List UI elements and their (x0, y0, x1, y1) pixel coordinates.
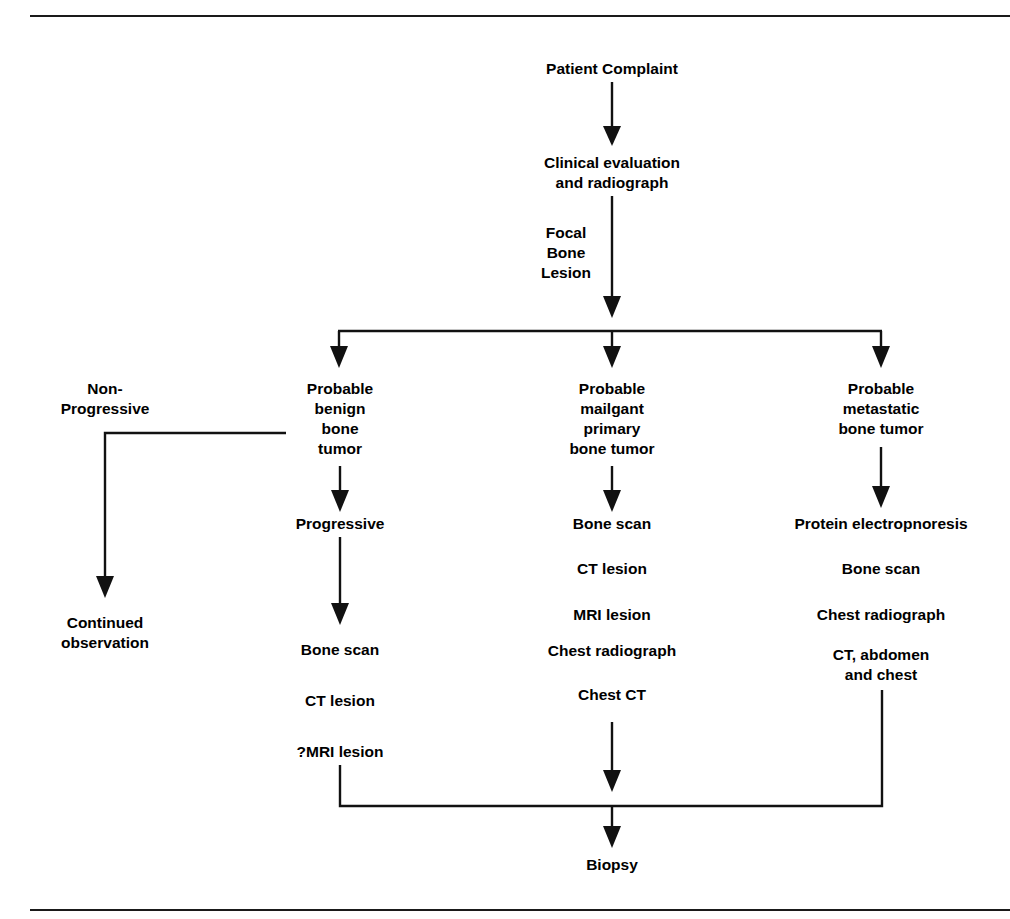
arrowhead-to-malignant-tests (603, 490, 621, 512)
node-malignant-line3: primary (584, 420, 641, 437)
arrowhead-to-metastatic (872, 346, 890, 368)
node-benign-line1: Probable (307, 380, 374, 397)
flowchart-canvas: Patient Complaint Clinical evaluation an… (0, 0, 1010, 919)
node-malignant-test-2: CT lesion (577, 560, 647, 577)
node-patient-complaint: Patient Complaint (546, 60, 678, 77)
node-malignant-test-1: Bone scan (573, 515, 651, 532)
node-metastatic-test-4-line2: and chest (845, 666, 917, 683)
node-focal-lesion-line1: Focal (546, 224, 586, 241)
node-benign-line4: tumor (318, 440, 362, 457)
node-continued-observation-line2: observation (61, 634, 149, 651)
arrowhead-to-continued-observation (96, 576, 114, 598)
arrowhead-to-benign (330, 346, 348, 368)
node-metastatic-test-1: Protein electropnoresis (794, 515, 967, 532)
node-malignant-test-4: Chest radiograph (548, 642, 676, 659)
edge-benign-to-continued-observation (105, 433, 286, 578)
node-clinical-evaluation-line2: and radiograph (556, 174, 669, 191)
node-metastatic-test-4-line1: CT, abdomen (833, 646, 929, 663)
node-metastatic-line2: metastatic (843, 400, 920, 417)
node-malignant-test-3: MRI lesion (573, 606, 651, 623)
arrowhead-to-metastatic-tests (872, 486, 890, 508)
arrowhead-to-malignant (603, 346, 621, 368)
node-clinical-evaluation-line1: Clinical evaluation (544, 154, 680, 171)
node-metastatic-line1: Probable (848, 380, 915, 397)
figure-root: Patient Complaint Clinical evaluation an… (0, 0, 1010, 919)
node-metastatic-test-3: Chest radiograph (817, 606, 945, 623)
arrowhead-to-evaluation (603, 126, 621, 146)
node-non-progressive-line1: Non- (87, 380, 122, 397)
node-progressive: Progressive (296, 515, 385, 532)
node-malignant-line4: bone tumor (569, 440, 654, 457)
node-malignant-test-5: Chest CT (578, 686, 647, 703)
arrowhead-to-distribution (603, 296, 621, 318)
arrowhead-to-biopsy (603, 826, 621, 848)
arrowhead-malignant-to-convergence (603, 770, 621, 792)
node-metastatic-line3: bone tumor (838, 420, 923, 437)
node-metastatic-test-2: Bone scan (842, 560, 920, 577)
node-benign-test-1: Bone scan (301, 641, 379, 658)
node-benign-line2: benign (315, 400, 366, 417)
node-malignant-line1: Probable (579, 380, 646, 397)
node-focal-lesion-line3: Lesion (541, 264, 591, 281)
node-continued-observation-line1: Continued (67, 614, 144, 631)
arrowhead-to-benign-tests (331, 603, 349, 625)
node-benign-test-3: ?MRI lesion (297, 743, 384, 760)
node-biopsy: Biopsy (586, 856, 638, 873)
node-focal-lesion-line2: Bone (547, 244, 586, 261)
node-malignant-line2: mailgant (580, 400, 644, 417)
node-benign-line3: bone (321, 420, 358, 437)
arrowhead-to-progressive (331, 490, 349, 512)
node-non-progressive-line2: Progressive (61, 400, 150, 417)
node-benign-test-2: CT lesion (305, 692, 375, 709)
